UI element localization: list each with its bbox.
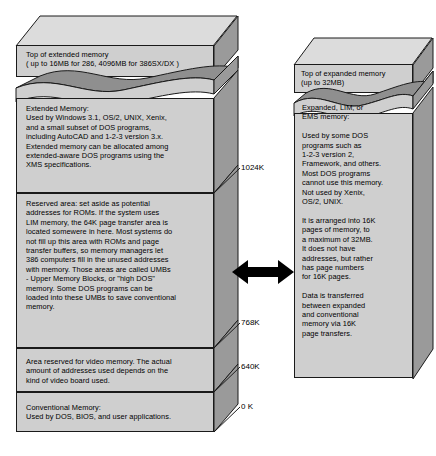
right-expanded-side-face — [412, 83, 436, 383]
reserved-area-text: Reserved area: set aside as potential ad… — [26, 199, 216, 312]
video-memory-area-text: Area reserved for video memory. The actu… — [26, 357, 216, 385]
addr-0k: 0 K — [241, 402, 253, 411]
transfer-arrow — [232, 258, 294, 288]
conventional-memory-text: Conventional Memory: Used by DOS, BIOS, … — [26, 403, 216, 422]
expanded-memory-text: Expanded, LIM, or EMS memory: Used by so… — [302, 103, 414, 338]
addr-768k: 768K — [241, 318, 260, 327]
address-leader-lines — [210, 160, 270, 435]
extended-memory-text: Extended Memory: Used by Windows 3.1, OS… — [26, 104, 214, 170]
addr-1024k: 1024K — [241, 163, 264, 172]
top-of-extended-memory-text: Top of extended memory ( up to 16MB for … — [26, 50, 212, 69]
memory-map-diagram: Top of extended memory ( up to 16MB for … — [0, 0, 436, 456]
addr-640k: 640K — [241, 362, 260, 371]
